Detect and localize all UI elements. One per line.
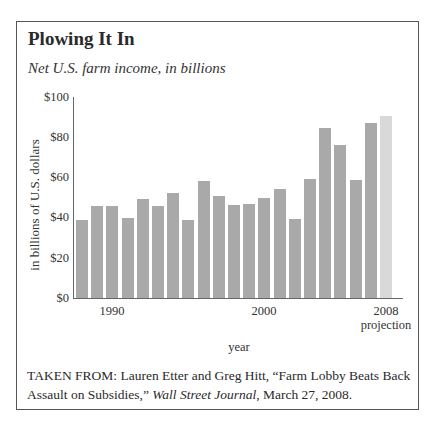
bar-2002 [289, 219, 301, 298]
bar-2006 [350, 180, 362, 298]
x-tick-2000: 2000 [252, 304, 277, 318]
projection-label: projection [361, 318, 412, 332]
bar-1995 [182, 220, 194, 298]
bar-series [0, 0, 437, 427]
bar-1998 [228, 205, 240, 298]
publication-name: Wall Street Journal [152, 387, 256, 402]
bar-1992 [137, 199, 149, 298]
x-tick-2008: 2008projection [361, 304, 412, 332]
bar-1991 [122, 218, 134, 298]
bar-1999 [243, 204, 255, 298]
bar-projection-2008 [380, 116, 392, 298]
bar-2000 [258, 198, 270, 299]
bar-1997 [213, 196, 225, 298]
bar-2007 [365, 123, 377, 298]
bar-2003 [304, 179, 316, 298]
bar-2005 [334, 145, 346, 298]
bar-1996 [198, 181, 210, 298]
y-axis-line [73, 97, 74, 298]
bar-1994 [167, 193, 179, 298]
bar-1990 [106, 206, 118, 298]
bar-1988 [76, 220, 88, 298]
bar-2004 [319, 128, 331, 298]
bar-1993 [152, 206, 164, 298]
x-axis-label: year [228, 340, 250, 355]
x-axis-line [73, 298, 403, 299]
bar-2001 [274, 189, 286, 298]
source-citation: TAKEN FROM: Lauren Etter and Greg Hitt, … [27, 366, 412, 404]
bar-1989 [91, 206, 103, 298]
x-tick-1990: 1990 [100, 304, 125, 318]
